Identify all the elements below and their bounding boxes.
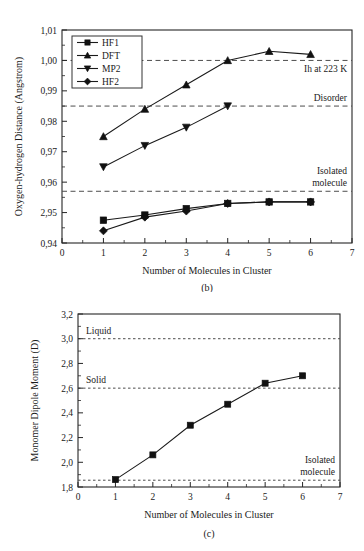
- marker-square-shape: [300, 373, 306, 379]
- x-tick-label: 3: [184, 248, 189, 258]
- legend-label-HF1: HF1: [102, 38, 119, 48]
- reference-line-label: Liquid: [86, 326, 112, 336]
- y-tick-label: 0,97: [40, 147, 57, 157]
- marker-square: [187, 422, 193, 428]
- x-tick-label: 6: [308, 248, 313, 258]
- legend-label-MP2: MP2: [102, 64, 121, 74]
- y-tick-label: 0,94: [40, 239, 57, 249]
- x-tick-label: 6: [300, 492, 305, 502]
- x-tick-label: 5: [267, 248, 272, 258]
- chart-panel-c: LiquidSolidIsolatedmolecule012345671,82,…: [0, 292, 364, 551]
- chart-b-svg: Ih at 223 KDisorderIsolatedmolecule01234…: [0, 0, 364, 292]
- marker-square-shape: [112, 477, 118, 483]
- series-line-Monomer dipole moment: [115, 376, 302, 480]
- reference-line-label: Solid: [86, 375, 106, 385]
- marker-square: [300, 373, 306, 379]
- panel-caption: (c): [203, 528, 214, 540]
- y-tick-label: 1,00: [40, 56, 57, 66]
- x-tick-label: 1: [101, 248, 106, 258]
- x-tick-label: 0: [76, 492, 81, 502]
- marker-square-shape: [225, 401, 231, 407]
- y-tick-label: 0,98: [40, 117, 57, 127]
- x-tick-label: 3: [188, 492, 193, 502]
- marker-triangle-down-shape: [141, 142, 149, 149]
- y-tick-label: 2,8: [61, 359, 73, 369]
- y-axis-title: Oxygen-hydrogen Distance (Angstrom): [13, 57, 25, 216]
- marker-square: [100, 217, 106, 223]
- reference-line-label: molecule: [300, 467, 335, 477]
- y-tick-label: 1,01: [40, 26, 57, 36]
- marker-triangle-up-shape: [100, 133, 108, 140]
- marker-square-shape: [85, 40, 90, 45]
- marker-triangle-down-shape: [182, 124, 190, 131]
- y-tick-label: 2,2: [61, 433, 73, 443]
- y-tick-label: 0,96: [40, 178, 57, 188]
- plot-frame: [78, 314, 340, 487]
- marker-triangle-down: [100, 164, 108, 171]
- y-tick-label: 1,8: [61, 483, 73, 493]
- series-line-MP2: [103, 106, 227, 167]
- x-tick-label: 2: [150, 492, 155, 502]
- y-tick-label: 3,2: [61, 310, 73, 320]
- marker-square-shape: [262, 380, 268, 386]
- x-axis-title: Number of Molecules in Cluster: [144, 509, 274, 520]
- y-tick-label: 0,99: [40, 86, 57, 96]
- x-tick-label: 7: [350, 248, 355, 258]
- reference-line-label: Disorder: [314, 93, 348, 103]
- x-axis-title: Number of Molecules in Cluster: [142, 265, 272, 276]
- x-tick-label: 2: [142, 248, 147, 258]
- figure-container: Ih at 223 KDisorderIsolatedmolecule01234…: [0, 0, 364, 551]
- chart-panel-b: Ih at 223 KDisorderIsolatedmolecule01234…: [0, 0, 364, 292]
- marker-square: [262, 380, 268, 386]
- marker-square: [112, 477, 118, 483]
- reference-line-label: Isolated: [305, 455, 335, 465]
- legend-label-DFT: DFT: [102, 51, 120, 61]
- x-tick-label: 0: [60, 248, 65, 258]
- marker-diamond: [99, 227, 107, 235]
- reference-line-label: Isolated: [317, 166, 347, 176]
- marker-square-shape: [100, 217, 106, 223]
- x-tick-label: 1: [113, 492, 118, 502]
- marker-triangle-down: [141, 142, 149, 149]
- marker-triangle-up: [182, 81, 190, 88]
- y-tick-label: 2,4: [61, 408, 73, 418]
- legend-label-HF2: HF2: [102, 77, 119, 87]
- chart-c-svg: LiquidSolidIsolatedmolecule012345671,82,…: [0, 292, 364, 551]
- marker-square-shape: [150, 452, 156, 458]
- marker-diamond-shape: [99, 227, 107, 235]
- x-tick-label: 4: [225, 248, 230, 258]
- y-tick-label: 2,0: [61, 458, 73, 468]
- marker-square: [150, 452, 156, 458]
- y-tick-label: 2,6: [61, 384, 73, 394]
- y-tick-label: 3,0: [61, 334, 73, 344]
- marker-triangle-down-shape: [100, 164, 108, 171]
- marker-triangle-down: [182, 124, 190, 131]
- reference-line-label: molecule: [312, 178, 347, 188]
- marker-square: [225, 401, 231, 407]
- reference-line-label: Ih at 223 K: [304, 64, 347, 74]
- x-tick-label: 4: [225, 492, 230, 502]
- y-tick-label: 2,95: [40, 208, 57, 218]
- marker-square: [85, 40, 90, 45]
- x-tick-label: 7: [338, 492, 343, 502]
- panel-caption: (b): [201, 282, 213, 292]
- marker-triangle-up-shape: [182, 81, 190, 88]
- series-line-HF1: [103, 202, 310, 220]
- marker-triangle-up: [100, 133, 108, 140]
- y-axis-title: Monomer Dipole Moment (D): [29, 340, 41, 462]
- x-tick-label: 5: [263, 492, 268, 502]
- marker-square-shape: [187, 422, 193, 428]
